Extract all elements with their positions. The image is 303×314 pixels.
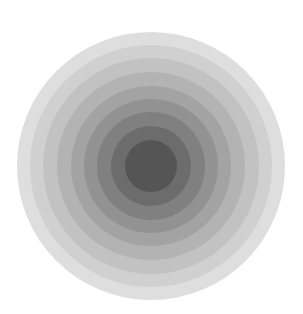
concentric-circles-figure (0, 0, 303, 314)
ring-9 (125, 140, 177, 192)
